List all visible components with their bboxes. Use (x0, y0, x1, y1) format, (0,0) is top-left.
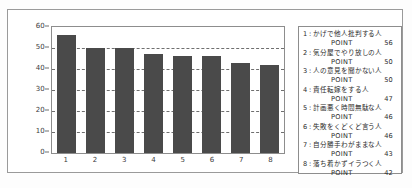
legend-item-label: 3 : 人の意見を聞かない人 (303, 67, 398, 76)
legend-item: 4 : 責任転嫁をする人POINT47 (303, 86, 398, 104)
legend-item-point-value: 46 (384, 132, 398, 141)
legend-item-point-value: 46 (384, 113, 398, 122)
y-axis-tick-mark (45, 110, 49, 111)
legend-item-point-row: POINT46 (303, 132, 398, 141)
legend-item: 3 : 人の意見を聞かない人POINT50 (303, 67, 398, 85)
legend-item-label: 5 : 計画悪く時間無駄な人 (303, 104, 398, 113)
legend-item-point-row: POINT46 (303, 113, 398, 122)
legend-item: 1 : かげで他人批判する人POINT56 (303, 30, 398, 48)
x-axis-tick-label: 7 (232, 156, 251, 164)
x-axis: 12345678 (51, 156, 285, 164)
y-axis-tick-mark (45, 26, 49, 27)
legend-item-point-label: POINT (331, 39, 353, 48)
legend-item-label: 4 : 責任転嫁をする人 (303, 86, 398, 95)
bar (86, 48, 105, 153)
bar (144, 54, 163, 153)
bar (202, 56, 221, 153)
legend-item-label: 6 : 失敗をくどくど言う人 (303, 123, 398, 132)
y-axis-tick-label: 60 (36, 22, 45, 30)
legend-item-point-row: POINT56 (303, 39, 398, 48)
legend-item-text: 計画悪く時間無駄な人 (313, 104, 382, 112)
legend-item-label: 8 : 落ち着かずイラつく人 (303, 160, 398, 169)
legend-item-point-label: POINT (331, 76, 353, 85)
legend-item-label: 7 : 自分勝手わがままな人 (303, 141, 398, 150)
x-axis-tick-label: 6 (202, 156, 221, 164)
x-axis-tick-label: 1 (56, 156, 75, 164)
legend: 1 : かげで他人批判する人POINT562 : 気分屋でやり放しの人POINT… (298, 26, 402, 174)
legend-item-text: 責任転嫁をする人 (313, 86, 368, 94)
legend-item-text: 落ち着かずイラつく人 (313, 160, 382, 168)
y-axis-tick-label: 20 (36, 106, 45, 114)
x-axis-tick-label: 5 (173, 156, 192, 164)
bar (260, 65, 279, 153)
legend-item-point-row: POINT47 (303, 95, 398, 104)
legend-item-point-row: POINT42 (303, 169, 398, 178)
legend-item-point-value: 42 (384, 169, 398, 178)
y-axis-tick-label: 30 (36, 85, 45, 93)
y-axis-tick-mark (45, 68, 49, 69)
legend-item-text: かげで他人批判する人 (313, 30, 382, 38)
legend-item-point-value: 43 (384, 150, 398, 159)
legend-item: 6 : 失敗をくどくど言う人POINT46 (303, 123, 398, 141)
y-axis: 0102030405060 (21, 26, 49, 154)
x-axis-tick-label: 4 (144, 156, 163, 164)
legend-item-text: 失敗をくどくど言う人 (313, 123, 382, 131)
legend-item-point-label: POINT (331, 169, 353, 178)
y-axis-tick-mark (45, 131, 49, 132)
x-axis-tick-label: 8 (261, 156, 280, 164)
legend-item-point-value: 56 (384, 39, 398, 48)
legend-item: 7 : 自分勝手わがままな人POINT43 (303, 141, 398, 159)
x-axis-tick-label: 3 (115, 156, 134, 164)
legend-item-point-label: POINT (331, 95, 353, 104)
bar (173, 56, 192, 153)
legend-item-point-value: 47 (384, 95, 398, 104)
legend-item: 5 : 計画悪く時間無駄な人POINT46 (303, 104, 398, 122)
x-axis-tick-label: 2 (85, 156, 104, 164)
bar (231, 63, 250, 153)
bars-container (52, 27, 284, 153)
legend-item-point-label: POINT (331, 150, 353, 159)
y-axis-tick-mark (45, 152, 49, 153)
y-axis-tick-label: 50 (36, 43, 45, 51)
chart-outer-frame: 0102030405060 12345678 1 : かげで他人批判する人POI… (7, 9, 403, 173)
legend-item-point-row: POINT50 (303, 58, 398, 67)
legend-item-point-label: POINT (331, 113, 353, 122)
legend-item-point-row: POINT43 (303, 150, 398, 159)
legend-item: 2 : 気分屋でやり放しの人POINT50 (303, 49, 398, 67)
legend-item-point-value: 50 (384, 58, 398, 67)
bar (115, 48, 134, 153)
y-axis-tick-mark (45, 89, 49, 90)
legend-item: 8 : 落ち着かずイラつく人POINT42 (303, 160, 398, 178)
legend-item-label: 1 : かげで他人批判する人 (303, 30, 398, 39)
legend-item-point-value: 50 (384, 76, 398, 85)
chart-screenshot: 0102030405060 12345678 1 : かげで他人批判する人POI… (0, 0, 412, 188)
y-axis-tick-label: 40 (36, 64, 45, 72)
y-axis-tick-label: 10 (36, 127, 45, 135)
legend-item-text: 人の意見を聞かない人 (313, 67, 382, 75)
bar (57, 35, 76, 153)
plot-area (51, 26, 285, 154)
legend-item-point-row: POINT50 (303, 76, 398, 85)
legend-item-point-label: POINT (331, 58, 353, 67)
legend-item-label: 2 : 気分屋でやり放しの人 (303, 49, 398, 58)
legend-item-text: 気分屋でやり放しの人 (313, 49, 382, 57)
legend-item-text: 自分勝手わがままな人 (313, 141, 382, 149)
bar-chart-panel: 0102030405060 12345678 (21, 15, 287, 168)
legend-item-point-label: POINT (331, 132, 353, 141)
y-axis-tick-mark (45, 47, 49, 48)
